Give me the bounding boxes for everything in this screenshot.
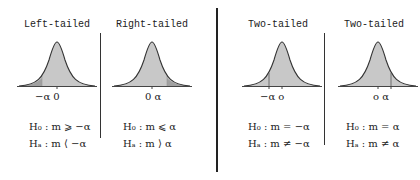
panel-title: Left-tailed [17,19,97,30]
main-divider [216,8,218,172]
null-hypothesis: H₀ : m = −α [248,121,310,132]
panel-left-tailed: Left-tailed −α 0 H₀ : m ⩾ −α Hₐ : m ⟨ −α [15,0,105,180]
panel-two-tailed-pos: Two-tailed o α H₀ : m = α Hₐ : m ≠ α [338,0,420,180]
alt-hypothesis: Hₐ : m ⟨ −α [29,138,86,149]
normal-curve-two-tail [338,38,418,90]
panel-title: Two-tailed [334,19,414,30]
axis-ticks: 0 α [145,91,161,102]
null-hypothesis: H₀ : m = α [346,121,399,132]
panel-right-tailed: Right-tailed 0 α H₀ : m ⩽ α Hₐ : m ⟩ α [110,0,200,180]
alt-hypothesis: Hₐ : m ≠ α [346,138,399,149]
null-hypothesis: H₀ : m ⩽ α [123,121,176,132]
normal-curve-two-tail [242,38,322,90]
panel-two-tailed-neg: Two-tailed −α o H₀ : m = −α Hₐ : m ≠ −α [240,0,330,180]
axis-ticks: −α o [260,91,284,102]
panel-title: Right-tailed [112,19,192,30]
axis-ticks: −α 0 [35,91,60,102]
axis-ticks: o α [373,91,389,102]
alt-hypothesis: Hₐ : m ⟩ α [123,138,172,149]
divider [100,33,101,138]
panel-title: Two-tailed [238,19,318,30]
alt-hypothesis: Hₐ : m ≠ −α [248,138,310,149]
divider [324,33,325,145]
null-hypothesis: H₀ : m ⩾ −α [29,121,90,132]
normal-curve-right-tail [112,38,192,90]
normal-curve-left-tail [17,38,97,90]
